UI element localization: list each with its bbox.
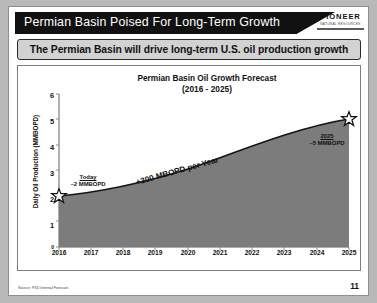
slide-canvas: Permian Basin Poised For Long-Term Growt… (8, 6, 369, 296)
x-tick-2025: 2025 (332, 249, 366, 256)
x-tick-2016: 2016 (42, 249, 76, 256)
annotation-2025-value: ~5 MMBOPD (309, 140, 344, 146)
annotation-today: Today ~2 MMBOPD (65, 174, 111, 188)
logo-tagline: NATURAL RESOURCES (317, 22, 364, 27)
page-title: Permian Basin Poised For Long-Term Growt… (24, 15, 280, 29)
x-tick-2022: 2022 (235, 249, 269, 256)
x-tick-2017: 2017 (74, 249, 108, 256)
chart-container: Permian Basin Oil Growth Forecast (2016 … (17, 65, 361, 271)
x-tick-2018: 2018 (106, 249, 140, 256)
page-number: 11 (350, 281, 359, 291)
x-tick-2021: 2021 (203, 249, 237, 256)
annotation-today-value: ~2 MMBOPD (70, 181, 105, 187)
logo-underline (317, 28, 364, 30)
annotation-2025-title: 2025 (320, 133, 333, 139)
annotation-today-title: Today (80, 174, 97, 180)
slide-header: Permian Basin Poised For Long-Term Growt… (15, 12, 364, 34)
pioneer-logo: PIONEER NATURAL RESOURCES (317, 12, 364, 36)
x-tick-2020: 2020 (171, 249, 205, 256)
annotation-2025: 2025 ~5 MMBOPD (304, 133, 350, 147)
x-tick-2019: 2019 (138, 249, 172, 256)
chart-inner: Permian Basin Oil Growth Forecast (2016 … (18, 66, 360, 270)
headline-banner: The Permian Basin will drive long-term U… (17, 39, 361, 60)
x-tick-2024: 2024 (300, 249, 334, 256)
source-note: Source: PXD Internal Forecast (18, 286, 68, 290)
x-tick-2023: 2023 (267, 249, 301, 256)
logo-wordmark: PIONEER (317, 12, 364, 22)
headline-text: The Permian Basin will drive long-term U… (30, 44, 348, 55)
